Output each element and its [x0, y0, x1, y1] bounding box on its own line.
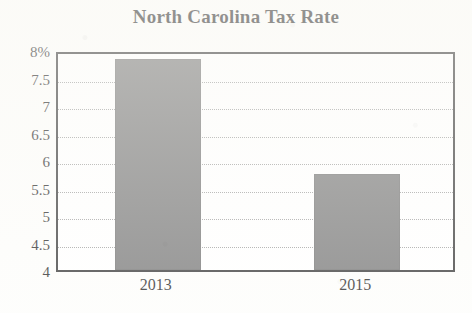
plot-area [56, 52, 455, 272]
bar [115, 59, 201, 270]
y-tick-label: 5.5 [0, 183, 50, 198]
y-tick-label: 6 [0, 155, 50, 170]
y-axis-tick-labels: 44.555.566.577.58% [0, 0, 52, 313]
x-axis-tick-labels: 20132015 [56, 276, 455, 304]
chart-title: North Carolina Tax Rate [0, 6, 472, 28]
y-tick-label: 4.5 [0, 238, 50, 253]
y-tick-label: 4 [0, 265, 50, 280]
y-tick-label: 7 [0, 100, 50, 115]
y-tick-label: 5 [0, 210, 50, 225]
x-tick-label: 2013 [111, 276, 201, 294]
x-tick-label: 2015 [310, 276, 400, 294]
bar [314, 174, 400, 270]
y-tick-label: 8% [0, 45, 50, 60]
y-tick-label: 7.5 [0, 73, 50, 88]
y-tick-label: 6.5 [0, 128, 50, 143]
bar-chart-figure: North Carolina Tax Rate 44.555.566.577.5… [0, 0, 472, 313]
